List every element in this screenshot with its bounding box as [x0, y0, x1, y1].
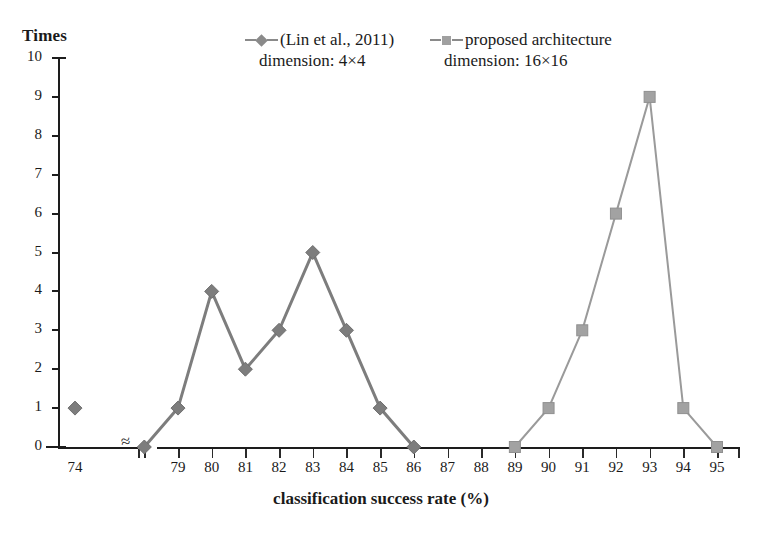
plot-area: ≈ 012345678910 7479808182838485868788899…	[0, 0, 762, 535]
data-point-s2-x94-y1	[678, 403, 689, 414]
x-axis-title: classification success rate (%)	[0, 489, 762, 509]
data-point-s1-x83-y5	[306, 246, 320, 260]
series-overlay	[0, 0, 762, 535]
data-point-s2-x90-y1	[543, 403, 554, 414]
data-point-s2-x92-y6	[610, 208, 621, 219]
chart-root: Times (Lin et al., 2011) dimension: 4×4 …	[0, 0, 762, 535]
data-point-s1-x84-y3	[339, 323, 353, 337]
data-point-s2-x93-y9	[644, 91, 655, 102]
data-point-s2-x95-y0	[712, 442, 723, 453]
data-point-s1-x74-y1	[68, 401, 82, 415]
data-point-s1-x80-y4	[205, 284, 219, 298]
data-point-s2-x91-y3	[577, 325, 588, 336]
series-line-1	[144, 253, 414, 448]
series-line-2	[515, 97, 717, 447]
data-point-s2-x89-y0	[509, 442, 520, 453]
